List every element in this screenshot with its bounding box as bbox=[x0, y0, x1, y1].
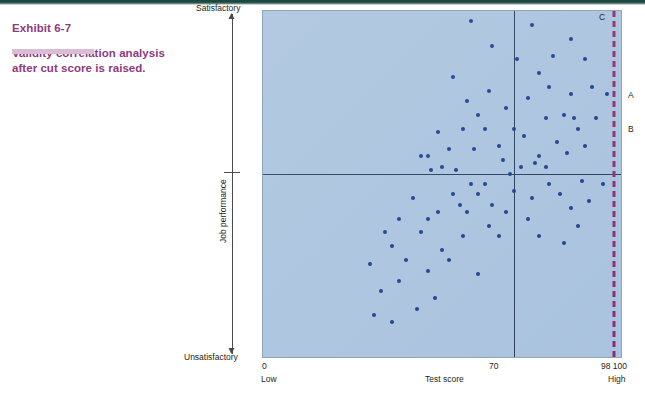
x-tick-0: 0 bbox=[262, 361, 267, 371]
y-axis-bottom-label: Unsatisfactory bbox=[184, 352, 238, 362]
scatter-point bbox=[469, 182, 473, 186]
scatter-point bbox=[426, 154, 430, 158]
raised-cut-score-line bbox=[612, 11, 615, 357]
x-tick-98-100: 98 100 bbox=[601, 361, 627, 371]
scatter-point bbox=[411, 196, 415, 200]
scatter-point bbox=[569, 92, 573, 96]
scatter-point bbox=[487, 89, 491, 93]
scatter-point bbox=[504, 106, 508, 110]
scatter-point bbox=[537, 71, 541, 75]
scatter-point bbox=[426, 269, 430, 273]
scatter-point bbox=[390, 320, 394, 324]
point-label-b: B bbox=[628, 124, 634, 134]
scatter-point bbox=[519, 165, 523, 169]
scatter-point bbox=[497, 144, 501, 148]
scatter-point bbox=[465, 99, 469, 103]
scatter-point bbox=[490, 44, 494, 48]
scatter-point bbox=[476, 272, 480, 276]
scatter-point bbox=[447, 147, 451, 151]
scatter-point bbox=[433, 296, 437, 300]
scatter-point bbox=[426, 217, 430, 221]
scatter-point bbox=[451, 75, 455, 79]
scatter-point bbox=[454, 168, 458, 172]
scatter-point bbox=[583, 57, 587, 61]
x-axis-title: Test score bbox=[425, 374, 464, 384]
scatter-point bbox=[379, 289, 383, 293]
scatter-point bbox=[533, 161, 537, 165]
scatter-point bbox=[447, 258, 451, 262]
scatter-point bbox=[562, 241, 566, 245]
scatter-point bbox=[497, 234, 501, 238]
scatter-point bbox=[565, 151, 569, 155]
scatter-point bbox=[572, 116, 576, 120]
scatter-point bbox=[368, 262, 372, 266]
scatter-point bbox=[544, 116, 548, 120]
scatter-point bbox=[526, 96, 530, 100]
scatter-point bbox=[522, 134, 526, 138]
old-cut-score-line bbox=[514, 11, 515, 357]
x-tick-100-sublabel: High bbox=[608, 374, 625, 384]
y-axis-top-label: Satisfactory bbox=[196, 3, 240, 13]
scatter-point bbox=[501, 158, 505, 162]
scatter-point bbox=[436, 210, 440, 214]
scatter-point bbox=[544, 165, 548, 169]
scatter-point bbox=[530, 196, 534, 200]
scatter-point bbox=[508, 172, 512, 176]
scatter-point bbox=[583, 144, 587, 148]
scatter-point bbox=[590, 85, 594, 89]
scatter-point bbox=[397, 217, 401, 221]
scatter-point bbox=[587, 199, 591, 203]
scatter-point bbox=[476, 192, 480, 196]
scatter-point bbox=[440, 165, 444, 169]
scatter-point bbox=[580, 179, 584, 183]
scatter-point bbox=[537, 154, 541, 158]
scatter-point bbox=[487, 224, 491, 228]
scatter-point bbox=[419, 230, 423, 234]
scatter-point bbox=[551, 54, 555, 58]
scatter-point bbox=[576, 224, 580, 228]
performance-threshold-line bbox=[263, 174, 621, 175]
point-label-a: A bbox=[628, 90, 634, 100]
point-label-c: C bbox=[599, 12, 605, 22]
scatter-point bbox=[461, 127, 465, 131]
scatter-point bbox=[515, 57, 519, 61]
scatter-point bbox=[601, 182, 605, 186]
scatter-point bbox=[397, 279, 401, 283]
scatter-point bbox=[429, 168, 433, 172]
scatter-point bbox=[576, 127, 580, 131]
scatter-point bbox=[562, 113, 566, 117]
x-tick-0-sublabel: Low bbox=[261, 374, 277, 384]
scatter-point bbox=[530, 23, 534, 27]
y-axis-midpoint-tick bbox=[224, 172, 240, 173]
y-axis-line bbox=[232, 14, 233, 354]
scatter-point bbox=[372, 313, 376, 317]
scatter-point bbox=[415, 307, 419, 311]
plot-area bbox=[262, 10, 622, 358]
scatter-point bbox=[569, 206, 573, 210]
scatter-point bbox=[504, 210, 508, 214]
scatter-point bbox=[440, 248, 444, 252]
scatter-point bbox=[512, 189, 516, 193]
scatter-figure: Satisfactory Unsatisfactory Job performa… bbox=[0, 0, 645, 412]
scatter-point bbox=[594, 116, 598, 120]
scatter-point bbox=[526, 217, 530, 221]
scatter-point bbox=[419, 154, 423, 158]
scatter-point bbox=[483, 127, 487, 131]
scatter-point bbox=[555, 140, 559, 144]
scatter-point bbox=[605, 92, 609, 96]
scatter-point bbox=[451, 192, 455, 196]
scatter-point bbox=[404, 258, 408, 262]
scatter-point bbox=[465, 210, 469, 214]
scatter-point bbox=[569, 37, 573, 41]
scatter-point bbox=[512, 127, 516, 131]
x-tick-70: 70 bbox=[489, 361, 498, 371]
scatter-point bbox=[476, 113, 480, 117]
scatter-point bbox=[547, 85, 551, 89]
y-axis-up-arrow-icon bbox=[229, 13, 235, 19]
scatter-point bbox=[472, 147, 476, 151]
scatter-point bbox=[547, 182, 551, 186]
scatter-point bbox=[537, 234, 541, 238]
scatter-point bbox=[383, 230, 387, 234]
scatter-point bbox=[558, 192, 562, 196]
scatter-point bbox=[461, 234, 465, 238]
